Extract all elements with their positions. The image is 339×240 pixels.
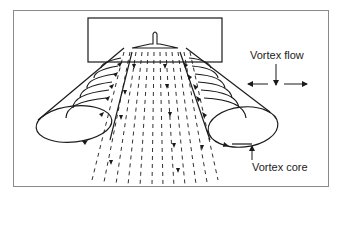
left-vortex-cylinder bbox=[34, 48, 132, 146]
vortex-flow-label: Vortex flow bbox=[250, 49, 304, 61]
downwash-dashed-lines bbox=[92, 52, 218, 186]
vortex-core-label: Vortex core bbox=[252, 161, 308, 173]
right-vortex-cylinder bbox=[180, 48, 280, 151]
vortex-flow-arrows bbox=[248, 64, 307, 85]
left-vortex-arrows bbox=[82, 62, 122, 145]
